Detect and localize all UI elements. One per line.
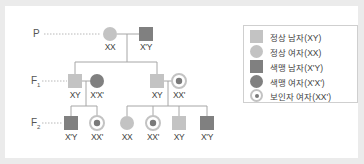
f2-normal-male — [172, 116, 186, 130]
normal-male-square-icon — [250, 30, 263, 43]
colorblind-male-square-icon — [250, 60, 263, 73]
generation-label-p: P — [33, 28, 40, 39]
f1-normal-male-left — [68, 74, 82, 88]
generation-label-f2: F2 — [31, 117, 40, 130]
f1-normal-male-right — [150, 74, 164, 88]
p-mother-normal-female — [103, 27, 117, 41]
legend-item-normal-female: 정상 여자(XX) — [250, 45, 321, 58]
f2-carrier-female-1 — [90, 116, 104, 130]
f1-colorblind-female — [90, 74, 104, 88]
carrier-female-circle-icon — [250, 89, 263, 102]
genotype-label: XY — [164, 132, 194, 142]
f2-colorblind-male-2 — [200, 116, 214, 130]
legend-item-carrier-female: 보인자 여자(XX') — [250, 89, 331, 102]
generation-label-f1: F1 — [31, 75, 40, 88]
legend: 정상 남자(XY) 정상 여자(XX) 색맹 남자(X'Y) 색맹 여자(X'X… — [243, 25, 358, 103]
genotype-label: X'X' — [82, 90, 112, 100]
f2-carrier-female-2 — [146, 116, 160, 130]
genotype-label: X'Y — [192, 132, 222, 142]
f1-carrier-female — [172, 74, 186, 88]
legend-item-colorblind-female: 색맹 여자(X'X') — [250, 75, 325, 88]
f2-colorblind-male-1 — [64, 116, 78, 130]
genotype-label: XX — [95, 42, 125, 52]
p-father-colorblind-male — [139, 27, 153, 41]
genotype-label: X'Y — [131, 42, 161, 52]
legend-item-normal-male: 정상 남자(XY) — [250, 30, 321, 43]
f2-normal-female — [120, 116, 134, 130]
genotype-label: XX' — [82, 132, 112, 142]
legend-item-colorblind-male: 색맹 남자(X'Y) — [250, 60, 323, 73]
normal-female-circle-icon — [250, 45, 263, 58]
colorblind-female-circle-icon — [250, 75, 263, 88]
genotype-label: XX' — [164, 90, 194, 100]
